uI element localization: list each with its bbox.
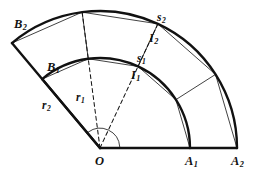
label-arc-s1: s1 — [137, 53, 146, 66]
chord-outer-a2-q2 — [216, 74, 237, 148]
label-point-b1: B1 — [47, 61, 60, 76]
label-s2-base: s — [157, 11, 161, 23]
label-i1-sub: 1 — [136, 74, 140, 83]
label-b2-sub: 2 — [23, 23, 27, 32]
label-r2-sub: 2 — [47, 104, 51, 113]
geometry-figure: O A1 A2 B1 B2 I1 I2 s1 s2 r1 r2 — [0, 0, 255, 178]
label-s1-base: s — [137, 52, 141, 64]
arc-outer-s2 — [12, 11, 237, 148]
label-a2-sub: 2 — [240, 160, 244, 169]
label-radius-r2: r2 — [42, 100, 51, 113]
arc-inner-s1 — [42, 58, 190, 148]
label-center: O — [95, 155, 104, 170]
label-arc-s2: s2 — [157, 12, 166, 25]
label-a1-sub: 1 — [194, 160, 198, 169]
radial-dashed-to-t2-outer — [82, 12, 100, 148]
label-point-i1: I1 — [131, 69, 140, 84]
label-center-base: O — [95, 154, 104, 168]
figure-canvas — [0, 0, 255, 178]
chord-inner-q1-m1 — [138, 66, 176, 99]
label-s2-sub: 2 — [162, 16, 166, 25]
draw-layer — [12, 11, 237, 148]
label-radius-r1: r1 — [76, 92, 85, 105]
label-point-a1: A1 — [185, 155, 198, 170]
angle-marker-arc — [88, 128, 119, 146]
label-b2-base: B — [14, 17, 22, 31]
label-a1-base: A — [185, 154, 193, 168]
label-point-i2: I2 — [149, 32, 158, 47]
label-r1-base: r — [76, 91, 80, 103]
label-s1-sub: 1 — [142, 57, 146, 66]
label-b1-sub: 1 — [56, 66, 60, 75]
label-b1-base: B — [47, 60, 55, 74]
chord-outer-q2-m2 — [158, 24, 216, 75]
spoke-q1-q2 — [176, 74, 216, 99]
label-point-a2: A2 — [231, 155, 244, 170]
label-a2-base: A — [231, 154, 239, 168]
label-r2-base: r — [42, 99, 46, 111]
label-point-b2: B2 — [14, 18, 27, 33]
label-i2-sub: 2 — [154, 37, 158, 46]
label-r1-sub: 1 — [81, 96, 85, 105]
